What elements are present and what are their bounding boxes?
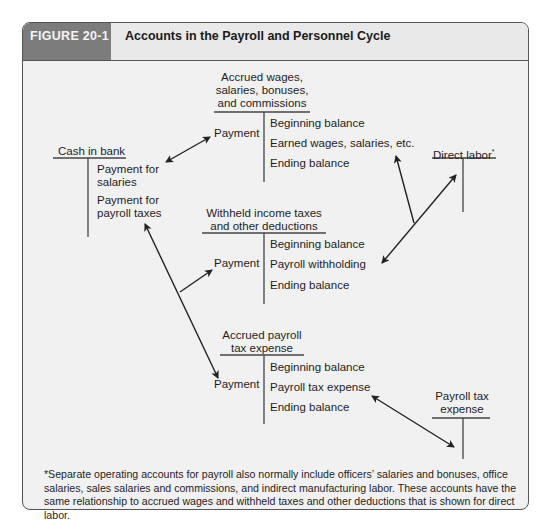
accrued-wages-credit-3: Ending balance (270, 157, 349, 170)
payroll-tax-expense-title-1: Payroll tax (426, 390, 498, 403)
accrued-payroll-tax-debit: Payment (214, 378, 259, 391)
arrow-cash-wages (166, 137, 210, 162)
arrow-direct-labor-withheld (382, 175, 456, 263)
withheld-credit-3: Ending balance (270, 279, 349, 292)
accrued-wages-title-3: and commissions (212, 97, 312, 110)
arrow-cash-payroll-tax (145, 224, 218, 378)
accrued-wages-credit-2: Earned wages, salaries, etc. (270, 137, 414, 150)
cash-credit-3: Payment for (97, 194, 159, 207)
accrued-wages-title-1: Accrued wages, (212, 71, 312, 84)
cash-in-bank-title: Cash in bank (58, 145, 125, 158)
accrued-wages-debit: Payment (214, 127, 259, 140)
cash-credit-1: Payment for (97, 163, 159, 176)
accrued-payroll-tax-credit-2: Payroll tax expense (270, 381, 370, 394)
direct-labor-title: Direct labor* (433, 145, 495, 162)
arrow-branch-earned (396, 156, 414, 223)
footnote-marker: * (492, 148, 495, 155)
accrued-payroll-tax-credit-3: Ending balance (270, 401, 349, 414)
direct-labor-title-text: Direct labor (433, 149, 492, 161)
arrow-branch-withheld (180, 270, 212, 292)
payroll-tax-expense-title-2: expense (426, 403, 498, 416)
accrued-payroll-tax-credit-1: Beginning balance (270, 361, 365, 374)
accrued-payroll-tax-title-1: Accrued payroll (212, 329, 312, 342)
withheld-credit-1: Beginning balance (270, 238, 365, 251)
accrued-payroll-tax-title-2: tax expense (212, 342, 312, 355)
accrued-wages-title-2: salaries, bonuses, (212, 84, 312, 97)
footnote: *Separate operating accounts for payroll… (44, 468, 524, 522)
withheld-title-1: Withheld income taxes (200, 207, 328, 220)
cash-credit-4: payroll taxes (97, 207, 162, 220)
accrued-wages-credit-1: Beginning balance (270, 117, 365, 130)
cash-credit-2: salaries (97, 176, 137, 189)
withheld-debit: Payment (214, 257, 259, 270)
withheld-credit-2: Payroll withholding (270, 258, 366, 271)
withheld-title-2: and other deductions (200, 220, 328, 233)
